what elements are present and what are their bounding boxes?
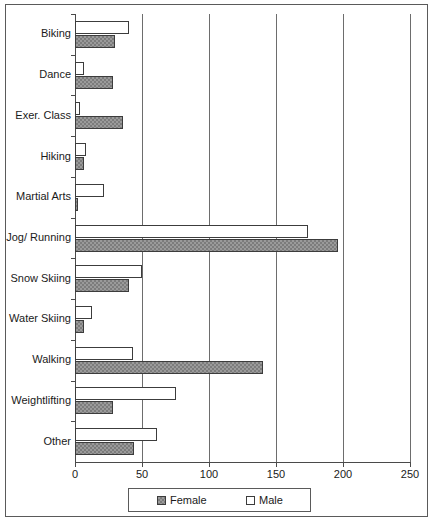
legend-entry-male: Male [246, 493, 283, 507]
category-label-exer-class: Exer. Class [15, 109, 71, 122]
category-label-snow-skiing: Snow Skiing [10, 272, 71, 285]
category-label-water-skiing: Water Skiing [9, 312, 71, 325]
x-tick-100 [209, 462, 210, 467]
bar-chart: 050100150200250 BikingDanceExer. ClassHi… [0, 0, 436, 522]
gridline-100 [209, 14, 210, 462]
y-tick-8 [71, 340, 75, 341]
y-tick-0 [71, 14, 75, 15]
legend-entry-female: Female [157, 493, 207, 507]
x-tick-200 [343, 462, 344, 467]
y-tick-2 [71, 95, 75, 96]
bar-male-4 [75, 184, 104, 197]
bar-female-0 [75, 35, 115, 48]
category-label-hiking: Hiking [40, 150, 71, 163]
x-tick-0 [75, 462, 76, 467]
category-label-dance: Dance [39, 68, 71, 81]
y-tick-9 [71, 381, 75, 382]
gridline-200 [343, 14, 344, 462]
bar-male-8 [75, 347, 133, 360]
y-tick-3 [71, 136, 75, 137]
y-tick-5 [71, 218, 75, 219]
legend-label-female: Female [170, 493, 207, 507]
y-tick-10 [71, 421, 75, 422]
x-tick-label-100: 100 [200, 468, 218, 481]
bar-female-9 [75, 401, 113, 414]
x-tick-label-200: 200 [334, 468, 352, 481]
category-label-biking: Biking [41, 27, 71, 40]
y-tick-6 [71, 258, 75, 259]
bar-male-7 [75, 306, 92, 319]
x-tick-50 [142, 462, 143, 467]
bar-female-6 [75, 279, 129, 292]
gridline-150 [276, 14, 277, 462]
bar-female-10 [75, 442, 134, 455]
bar-female-4 [75, 198, 78, 211]
bar-male-5 [75, 225, 308, 238]
category-label-martial-arts: Martial Arts [16, 190, 71, 203]
category-label-jog-running: Jog/ Running [6, 231, 71, 244]
bar-male-3 [75, 143, 86, 156]
bar-female-7 [75, 320, 84, 333]
y-tick-4 [71, 177, 75, 178]
bar-female-3 [75, 157, 84, 170]
bar-female-5 [75, 239, 338, 252]
bar-female-1 [75, 76, 113, 89]
bar-female-2 [75, 116, 123, 129]
bar-female-8 [75, 361, 263, 374]
x-tick-150 [276, 462, 277, 467]
category-label-walking: Walking [32, 353, 71, 366]
bar-male-2 [75, 102, 80, 115]
bar-male-1 [75, 62, 84, 75]
chart-legend: Female Male [128, 488, 311, 512]
bar-male-10 [75, 428, 157, 441]
x-tick-label-250: 250 [401, 468, 419, 481]
female-swatch-icon [157, 496, 166, 505]
y-tick-7 [71, 299, 75, 300]
bar-male-9 [75, 387, 176, 400]
bar-male-6 [75, 265, 142, 278]
legend-label-male: Male [259, 493, 283, 507]
x-tick-label-0: 0 [72, 468, 78, 481]
y-tick-1 [71, 55, 75, 56]
category-label-other: Other [43, 435, 71, 448]
male-swatch-icon [246, 496, 255, 505]
gridline-250 [410, 14, 411, 462]
x-tick-label-150: 150 [267, 468, 285, 481]
x-tick-250 [410, 462, 411, 467]
bar-male-0 [75, 21, 129, 34]
x-axis-line [75, 462, 411, 463]
category-label-weightlifting: Weightlifting [11, 394, 71, 407]
x-tick-label-50: 50 [136, 468, 148, 481]
